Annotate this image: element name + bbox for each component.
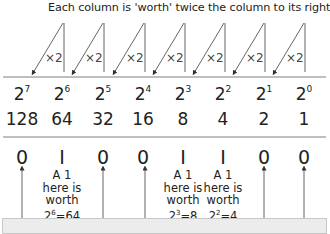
multiplier-label: ×2	[246, 51, 264, 65]
column-value: 64	[42, 109, 82, 129]
power-label: 27	[2, 84, 42, 104]
bottom-panel	[2, 218, 327, 234]
power-label: 24	[123, 84, 163, 104]
multiplier-label: ×2	[206, 51, 224, 65]
bit-annotation: A 1here isworth 22=4	[197, 169, 249, 222]
column-value: 4	[203, 109, 243, 129]
power-label: 23	[163, 84, 203, 104]
column-value: 8	[163, 109, 203, 129]
multiplier-label: ×2	[166, 51, 184, 65]
multiplier-label: ×2	[45, 51, 63, 65]
bit-digit: I	[163, 146, 203, 168]
bit-digit: 0	[2, 146, 42, 168]
bit-digit: 0	[123, 146, 163, 168]
multiplier-label: ×2	[85, 51, 103, 65]
bit-digit: 0	[284, 146, 324, 168]
power-label: 22	[203, 84, 243, 104]
power-label: 20	[284, 84, 324, 104]
bit-digit: 0	[83, 146, 123, 168]
bit-annotation: A 1here isworth 26=64	[36, 169, 88, 222]
bit-digit: I	[42, 146, 82, 168]
column-value: 16	[123, 109, 163, 129]
bit-digit: I	[203, 146, 243, 168]
column-value: 32	[83, 109, 123, 129]
column-value: 2	[244, 109, 284, 129]
power-label: 25	[83, 84, 123, 104]
multiplier-label: ×2	[286, 51, 304, 65]
multiplier-label: ×2	[126, 51, 144, 65]
column-value: 1	[284, 109, 324, 129]
column-value: 128	[2, 109, 42, 129]
power-label: 26	[42, 84, 82, 104]
bit-digit: 0	[244, 146, 284, 168]
power-label: 21	[244, 84, 284, 104]
